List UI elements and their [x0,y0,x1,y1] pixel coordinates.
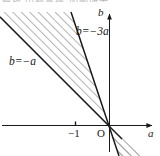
label-axis-a: a [148,128,154,139]
inequality-region-figure: 解析 由题意得 如图所示 b=−3a b=−a [0,0,160,156]
label-axis-b: b [98,7,104,18]
label-origin: O [97,128,105,139]
label-line-b-equals-neg-a: b=−a [9,56,36,68]
label-line-b-equals-neg-3a: b=−3a [76,26,109,38]
coordinate-plane-svg [0,0,160,156]
label-tick-neg-one: −1 [68,128,80,139]
